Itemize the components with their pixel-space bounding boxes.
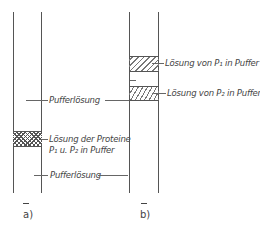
tube-a-band-leader [41,139,48,140]
tube-a-lower-leader-right [98,175,128,176]
tube-a-marker [23,203,29,204]
tube-b-p2-leader [154,93,166,94]
tube-a-band-label-line1: Lösung der Proteine [49,134,131,144]
tube-b-left-wall [129,12,130,193]
tube-a-band-label-line2: P₁ u. P₂ in Puffer [49,145,114,155]
tube-a-lower-leader-left [34,175,48,176]
tube-a-lower-buffer-label: Pufferlösung [50,170,101,180]
tube-a-right-wall [41,12,42,193]
tube-b-p1-label: Lösung von P₁ in Puffer [165,58,259,68]
tube-b-p1-leader [152,63,164,64]
tube-b-p2-label: Lösung von P₂ in Puffer [167,88,260,98]
tube-b-p1-band [129,56,159,72]
tube-a-upper-leader-left [26,100,48,101]
tube-b-caption: b) [140,209,150,220]
tube-b-marker [141,203,147,204]
tube-b-mid-dash [130,80,136,81]
tube-a-left-wall [13,12,14,193]
tube-b-right-wall [158,12,159,193]
tube-a-upper-leader-right [105,100,129,101]
tube-a-caption: a) [23,209,33,220]
tube-a-protein-band [13,131,42,147]
tube-a-upper-buffer-label: Pufferlösung [49,95,100,105]
